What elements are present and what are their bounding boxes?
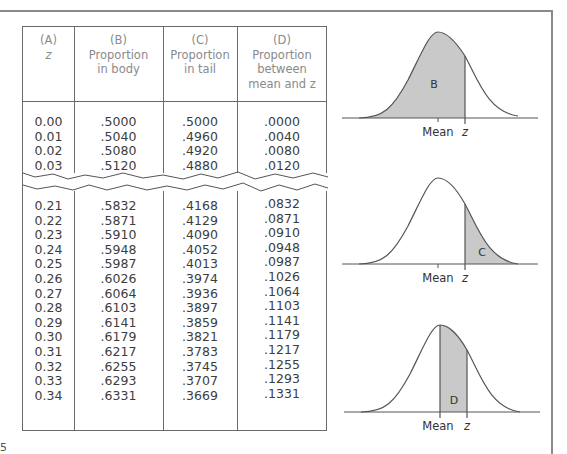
col-between-top: .0000 .0040 .0080 .0120: [237, 115, 327, 173]
cell: .4052: [163, 243, 237, 258]
cell: .1064: [237, 285, 327, 300]
cell: .0871: [237, 212, 327, 227]
cell: .5910: [74, 228, 163, 243]
cell: .6026: [74, 272, 163, 287]
cell: 0.31: [23, 345, 74, 360]
cell: .6179: [74, 330, 163, 345]
cell: .3745: [163, 360, 237, 375]
cell: .5987: [74, 257, 163, 272]
normal-curve-between: D Mean z: [338, 312, 543, 432]
region-label-b: B: [430, 78, 438, 91]
z-label: z: [461, 271, 469, 285]
mean-label: Mean: [422, 271, 453, 285]
cell: .0080: [237, 144, 327, 159]
cell: .4013: [163, 257, 237, 272]
cell: .0832: [237, 197, 327, 212]
header-d-line1: Proportion: [237, 48, 327, 63]
table-break-zigzag: [23, 169, 328, 195]
cell: .6141: [74, 316, 163, 331]
cell: 0.33: [23, 374, 74, 389]
cell: 0.21: [23, 199, 74, 214]
col-between-bottom: .0832 .0871 .0910 .0948 .0987 .1026 .106…: [237, 197, 327, 401]
header-b: (B) Proportion in body: [74, 33, 163, 77]
cell: .5000: [74, 115, 163, 130]
cell: 0.29: [23, 316, 74, 331]
cell: .0040: [237, 130, 327, 145]
cell: .6217: [74, 345, 163, 360]
header-a-label: z: [23, 48, 74, 63]
z-label: z: [463, 419, 471, 432]
mean-label: Mean: [422, 419, 453, 432]
header-c: (C) Proportion in tail: [163, 33, 237, 77]
cell: .1293: [237, 372, 327, 387]
header-d-line2: between: [237, 62, 327, 77]
header-divider: [23, 101, 326, 102]
cell: .6064: [74, 287, 163, 302]
cell: 0.00: [23, 115, 74, 130]
header-d-line3: mean and z: [237, 77, 327, 92]
cell: .3936: [163, 287, 237, 302]
cell: .6255: [74, 360, 163, 375]
cell: 0.24: [23, 243, 74, 258]
right-rule: [551, 10, 553, 454]
diagram-between-region: D Mean z: [338, 312, 543, 432]
header-c-line1: Proportion: [163, 48, 237, 63]
cell: 0.32: [23, 360, 74, 375]
cell: .5871: [74, 214, 163, 229]
cell: .4090: [163, 228, 237, 243]
cell: .1255: [237, 358, 327, 373]
cell: .4129: [163, 214, 237, 229]
cell: .6103: [74, 301, 163, 316]
cell: .6293: [74, 374, 163, 389]
normal-curve-tail: C Mean z: [338, 166, 543, 286]
cell: .4168: [163, 199, 237, 214]
cell: .1179: [237, 328, 327, 343]
cell: .5000: [163, 115, 237, 130]
cell: .3859: [163, 316, 237, 331]
mean-label: Mean: [422, 125, 453, 139]
cell: .1331: [237, 387, 327, 402]
cell: .5948: [74, 243, 163, 258]
cell: .3821: [163, 330, 237, 345]
cell: .0910: [237, 226, 327, 241]
cell: .3897: [163, 301, 237, 316]
cell: .1217: [237, 343, 327, 358]
cell: .4920: [163, 144, 237, 159]
cell: .1103: [237, 299, 327, 314]
cell: .3974: [163, 272, 237, 287]
cell: .3707: [163, 374, 237, 389]
z-label: z: [461, 125, 469, 139]
cell: 0.23: [23, 228, 74, 243]
top-rule: [0, 10, 553, 12]
cell: 0.30: [23, 330, 74, 345]
cell: .5832: [74, 199, 163, 214]
col-tail-top: .5000 .4960 .4920 .4880: [163, 115, 237, 173]
normal-curve-body: B Mean z: [338, 20, 543, 140]
cell: 0.22: [23, 214, 74, 229]
cell: .6331: [74, 389, 163, 404]
cell: .1026: [237, 270, 327, 285]
col-tail-bottom: .4168 .4129 .4090 .4052 .4013 .3974 .393…: [163, 199, 237, 403]
cell: 0.34: [23, 389, 74, 404]
region-label-d: D: [450, 394, 458, 407]
cell: .3783: [163, 345, 237, 360]
header-a-letter: (A): [23, 33, 74, 48]
col-body-top: .5000 .5040 .5080 .5120: [74, 115, 163, 173]
unit-normal-table: (A) z (B) Proportion in body (C) Proport…: [22, 26, 327, 431]
cell: .4960: [163, 130, 237, 145]
cell: 0.26: [23, 272, 74, 287]
cell: .1141: [237, 314, 327, 329]
cell: .5040: [74, 130, 163, 145]
cell: .0987: [237, 255, 327, 270]
header-b-letter: (B): [74, 33, 163, 48]
cell: 0.01: [23, 130, 74, 145]
header-a: (A) z: [23, 33, 74, 62]
header-d-letter: (D): [237, 33, 327, 48]
page-number: 5: [0, 441, 7, 454]
region-label-c: C: [478, 246, 486, 259]
diagram-tail-region: C Mean z: [338, 166, 543, 286]
cell: 0.27: [23, 287, 74, 302]
header-c-letter: (C): [163, 33, 237, 48]
cell: 0.28: [23, 301, 74, 316]
cell: .0948: [237, 241, 327, 256]
